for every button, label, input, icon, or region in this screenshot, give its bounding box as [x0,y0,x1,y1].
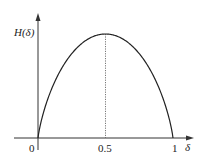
y-axis-label-text: H(δ) [14,26,34,38]
tick-label-1: 1 [172,143,178,154]
x-axis-label: δ [185,142,190,153]
y-axis-label: H(δ) [14,27,34,38]
y-axis-arrow-icon [36,13,41,21]
x-axis-arrow-icon [186,136,194,141]
tick-label-0: 0 [29,143,35,154]
entropy-chart [0,0,205,162]
tick-label-0-5: 0.5 [98,143,112,154]
